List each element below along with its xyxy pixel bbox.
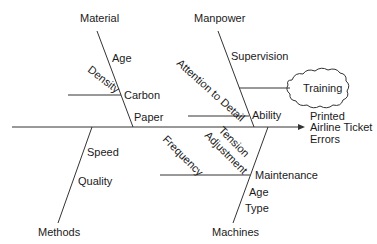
category-machines: Machines <box>212 226 260 238</box>
highlight-training: Training <box>303 82 342 94</box>
cause-age-machines: Age <box>249 186 269 198</box>
cause-frequency: Frequency <box>161 133 207 179</box>
cause-age-material: Age <box>112 52 132 64</box>
cause-supervision: Supervision <box>231 50 288 62</box>
arrow-head-icon <box>298 124 305 130</box>
effect-line-3: Errors <box>310 133 340 145</box>
cause-speed: Speed <box>87 146 119 158</box>
cause-type: Type <box>245 202 269 214</box>
category-methods: Methods <box>38 226 81 238</box>
cause-maintenance: Maintenance <box>255 169 318 181</box>
cause-carbon: Carbon <box>124 89 160 101</box>
effect-line-2: Airline Ticket <box>310 121 372 133</box>
cause-density: Density <box>86 63 123 95</box>
category-material: Material <box>80 12 119 24</box>
cause-ability: Ability <box>252 109 282 121</box>
cause-attention-to-detail: Attention to Detail <box>175 57 248 124</box>
cause-paper: Paper <box>134 111 164 123</box>
category-manpower: Manpower <box>194 12 246 24</box>
fishbone-diagram: Material Manpower Methods Machines Age D… <box>0 0 377 244</box>
cause-quality: Quality <box>78 175 113 187</box>
